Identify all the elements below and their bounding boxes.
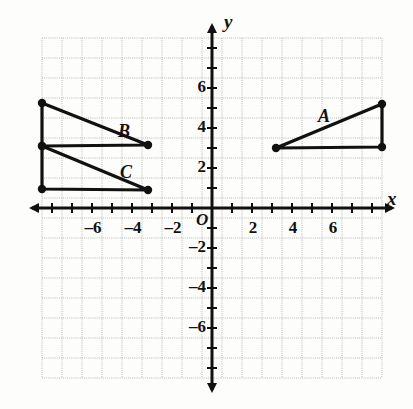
y-tick-label: 2	[182, 157, 206, 177]
y-tick-label: 6	[182, 77, 206, 97]
shape-label-b: B	[118, 121, 130, 142]
x-tick-label: –2	[162, 218, 184, 238]
x-tick-label: 2	[242, 218, 264, 238]
axis-lines	[29, 23, 395, 393]
graph-canvas	[0, 0, 413, 409]
x-tick-label: –4	[122, 218, 144, 238]
x-axis-name: x	[387, 188, 397, 210]
y-tick-label: –4	[182, 277, 206, 297]
y-tick-label: –2	[182, 237, 206, 257]
x-tick-label: 4	[282, 218, 304, 238]
y-tick-label: 4	[182, 117, 206, 137]
y-axis-name: y	[224, 11, 232, 33]
y-tick-label: –6	[182, 317, 206, 337]
shape-label-a: A	[318, 106, 330, 127]
origin-label: O	[196, 210, 208, 230]
coordinate-plane-figure: y x O –6–4–2246642–2–4–6 ABC	[0, 0, 413, 409]
x-tick-label: 6	[322, 218, 344, 238]
x-tick-label: –6	[82, 218, 104, 238]
shape-label-c: C	[120, 162, 132, 183]
